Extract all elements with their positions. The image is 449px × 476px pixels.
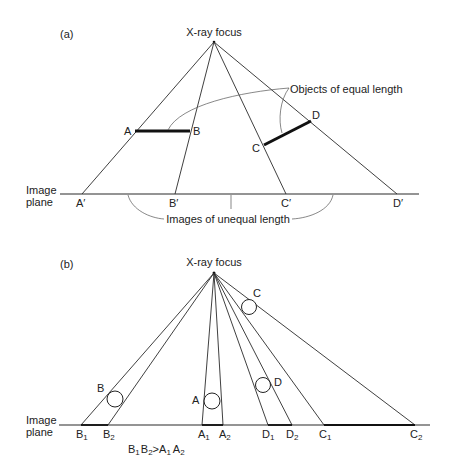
object-c-circle [242, 300, 257, 315]
image-point-a1: A1 [198, 428, 210, 442]
point-b-label: B [193, 125, 200, 137]
svg-text:B1: B1 [76, 428, 88, 442]
point-d-prime-label: D′ [393, 197, 403, 209]
panel-b-plane-label-2: plane [26, 426, 53, 438]
svg-text:C2: C2 [410, 428, 423, 442]
image-point-c2: C2 [410, 428, 423, 442]
object-a-label: A [192, 394, 200, 406]
svg-text:A2: A2 [219, 428, 231, 442]
point-a-label: A [124, 125, 132, 137]
object-b-label: B [97, 382, 104, 394]
point-b-prime-label: B′ [169, 197, 178, 209]
object-d-circle [256, 378, 271, 393]
image-point-b2: B2 [103, 428, 115, 442]
panel-b-label: (b) [60, 258, 73, 270]
svg-text:D1: D1 [262, 428, 275, 442]
object-b-circle [107, 391, 123, 407]
panel-b: (b) X-ray focus Image plane B A D C B1 [26, 256, 430, 457]
images-unequal-length-label: Images of unequal length [166, 213, 290, 225]
image-point-d2: D2 [286, 428, 299, 442]
panel-a-focus-label: X-ray focus [186, 26, 242, 38]
point-c-prime-label: C′ [281, 197, 291, 209]
object-d-label: D [274, 376, 282, 388]
x-ray-magnification-diagram: (a) X-ray focus Image plane A B C D A′ B… [0, 0, 449, 476]
svg-text:B2: B2 [103, 428, 115, 442]
bracket-images-left [128, 195, 164, 219]
svg-text:A1: A1 [198, 428, 210, 442]
ray-c-prime [214, 42, 286, 194]
relation-label: B1B2>A1A2 [128, 443, 185, 457]
svg-text:C1: C1 [319, 428, 332, 442]
object-cd [264, 121, 311, 145]
ray-c1 [214, 273, 324, 425]
panel-b-plane-label-1: Image [26, 414, 57, 426]
point-c-label: C [252, 142, 260, 154]
image-point-d1: D1 [262, 428, 275, 442]
ray-c2 [214, 273, 415, 425]
objects-equal-length-label: Objects of equal length [290, 83, 403, 95]
bracket-images-right [292, 195, 333, 219]
point-a-prime-label: A′ [76, 197, 85, 209]
object-c-label: C [253, 287, 261, 299]
object-a-circle [204, 393, 220, 409]
panel-b-focus-label: X-ray focus [186, 256, 242, 268]
panel-a-plane-label-2: plane [26, 196, 53, 208]
image-point-a2: A2 [219, 428, 231, 442]
panel-a-label: (a) [60, 28, 73, 40]
point-d-label: D [312, 109, 320, 121]
panel-a: (a) X-ray focus Image plane A B C D A′ B… [26, 26, 419, 225]
image-point-c1: C1 [319, 428, 332, 442]
svg-text:D2: D2 [286, 428, 299, 442]
image-point-b1: B1 [76, 428, 88, 442]
panel-a-plane-label-1: Image [26, 184, 57, 196]
ray-d-prime [214, 42, 397, 194]
leader-objects-cd [280, 88, 289, 133]
leader-objects-ab [168, 88, 289, 130]
